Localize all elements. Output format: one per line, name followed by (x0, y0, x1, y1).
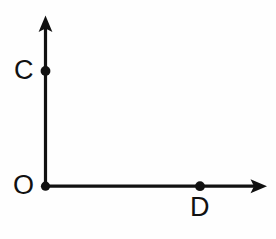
point-marker-D (195, 181, 205, 191)
geometry-figure (0, 0, 276, 239)
diagram-canvas: C O D (0, 0, 276, 239)
point-marker-O (41, 182, 50, 191)
point-label-c: C (14, 57, 34, 84)
point-marker-C (41, 66, 51, 76)
point-label-d: D (190, 194, 210, 221)
point-label-o: O (13, 172, 34, 199)
